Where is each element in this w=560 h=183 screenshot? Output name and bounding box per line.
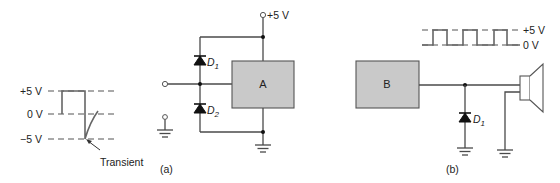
level-label-plus5: +5 V <box>523 24 545 36</box>
square-wave-trace <box>422 30 520 45</box>
speaker-return-wire <box>505 92 520 150</box>
transient-label: Transient <box>100 156 143 168</box>
junction-dot <box>261 35 265 39</box>
level-label-plus5: +5 V <box>20 85 42 97</box>
level-label-0: 0 V <box>523 39 539 51</box>
diode-d1-label: D1 <box>473 113 485 128</box>
level-label-minus5: −5 V <box>20 133 42 145</box>
ground-icon <box>497 150 513 157</box>
pulse-trace <box>62 91 98 139</box>
diode-d1-icon <box>459 113 471 122</box>
circuit-b: +5 V 0 V B D1 <box>356 24 545 175</box>
block-b-label: B <box>383 78 390 90</box>
diode-d1-label: D1 <box>207 56 219 71</box>
ground-icon <box>157 115 173 137</box>
supply-terminal-icon <box>260 12 265 17</box>
junction-dot <box>198 82 202 86</box>
ground-icon <box>457 148 473 155</box>
circuit-figure: +5 V 0 V −5 V Transient +5 V D1 D2 <box>0 0 560 183</box>
panel-a-label: (a) <box>160 163 173 175</box>
transient-waveform: +5 V 0 V −5 V Transient <box>20 85 143 168</box>
speaker-icon <box>520 64 543 112</box>
diode-d1-icon <box>194 56 206 65</box>
input-terminal-icon <box>162 81 167 86</box>
level-label-0: 0 V <box>27 108 43 120</box>
panel-b-label: (b) <box>446 163 459 175</box>
diode-d2-label: D2 <box>207 104 220 119</box>
circuit-a: +5 V D1 D2 A <box>157 9 294 175</box>
ground-icon <box>255 145 271 152</box>
square-wave: +5 V 0 V <box>422 24 545 51</box>
supply-label: +5 V <box>267 9 289 21</box>
junction-dot <box>261 130 265 134</box>
diode-d2-icon <box>194 104 206 113</box>
block-a-label: A <box>259 78 267 90</box>
